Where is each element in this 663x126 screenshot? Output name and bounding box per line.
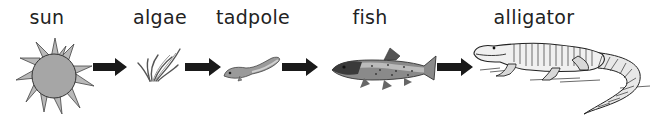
arrow-icon: [282, 58, 318, 76]
algae-icon: [136, 45, 186, 85]
fish-icon: [328, 46, 438, 92]
label-tadpole: tadpole: [216, 6, 290, 28]
alligator-icon: [470, 40, 654, 116]
arrow-icon: [437, 58, 473, 76]
sun-icon: [14, 36, 96, 116]
label-algae: algae: [133, 6, 187, 28]
arrow-icon: [93, 58, 127, 76]
label-fish: fish: [352, 6, 387, 28]
label-sun: sun: [30, 6, 65, 28]
tadpole-icon: [222, 54, 282, 82]
label-alligator: alligator: [494, 6, 575, 28]
arrow-icon: [185, 58, 221, 76]
